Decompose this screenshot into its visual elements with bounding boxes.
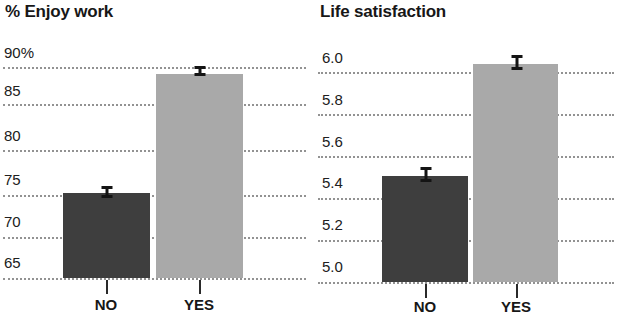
errorbar-no: [100, 186, 113, 198]
ytick-label-70: 70: [4, 213, 21, 230]
chart-panel-life-satisfaction: Life satisfaction 6.0 5.8 5.6 5.4 5.2 5.…: [310, 0, 619, 323]
xtick-yes: [199, 280, 201, 294]
axis-baseline-enjoy-work: [3, 278, 306, 280]
figure-two-bar-charts: % Enjoy work 90% 85 80 75 70 65: [0, 0, 619, 323]
xtick-no: [425, 284, 427, 298]
gridline-75: [3, 195, 306, 197]
gridline-90: [3, 67, 306, 69]
gridline-80: [3, 150, 306, 152]
ytick-label-65: 65: [4, 254, 21, 271]
xtick-label-no: NO: [95, 296, 118, 313]
xtick-no: [106, 280, 108, 294]
ytick-label-5-6: 5.6: [322, 133, 343, 150]
ytick-label-5-8: 5.8: [322, 91, 343, 108]
errorbar-cap-top: [420, 167, 431, 170]
errorbar-cap-bottom: [511, 67, 522, 70]
gridline-5-6: [318, 156, 614, 158]
ytick-label-75: 75: [4, 171, 21, 188]
ytick-label-5-0: 5.0: [322, 258, 343, 275]
gridline-5-8: [318, 114, 614, 116]
errorbar-cap-bottom: [420, 179, 431, 182]
errorbar-no: [419, 167, 432, 182]
errorbar-cap-top: [194, 66, 205, 69]
bar-yes: [473, 64, 558, 282]
plot-area-life-satisfaction: 6.0 5.8 5.6 5.4 5.2 5.0 NO: [310, 0, 619, 323]
ytick-label-80: 80: [4, 127, 21, 144]
errorbar-yes: [193, 66, 206, 76]
xtick-label-no: NO: [414, 298, 437, 315]
ytick-label-85: 85: [4, 82, 21, 99]
xtick-label-yes: YES: [501, 298, 531, 315]
plot-area-enjoy-work: 90% 85 80 75 70 65 NO YE: [0, 0, 310, 323]
gridline-85: [3, 104, 306, 106]
bar-no: [63, 193, 150, 278]
errorbar-cap-bottom: [194, 73, 205, 76]
xtick-label-yes: YES: [184, 296, 214, 313]
bar-yes: [156, 74, 243, 278]
xtick-yes: [516, 284, 518, 298]
ytick-label-5-2: 5.2: [322, 216, 343, 233]
bar-no: [382, 176, 468, 282]
chart-panel-enjoy-work: % Enjoy work 90% 85 80 75 70 65: [0, 0, 310, 323]
ytick-label-5-4: 5.4: [322, 174, 343, 191]
errorbar-cap-top: [511, 55, 522, 58]
errorbar-yes: [510, 55, 523, 70]
ytick-label-6-0: 6.0: [322, 49, 343, 66]
gridline-70: [3, 237, 306, 239]
gridline-6-0: [318, 72, 614, 74]
ytick-label-90: 90%: [4, 44, 34, 61]
errorbar-cap-bottom: [101, 195, 112, 198]
errorbar-cap-top: [101, 186, 112, 189]
axis-baseline-life-satisfaction: [318, 282, 614, 284]
